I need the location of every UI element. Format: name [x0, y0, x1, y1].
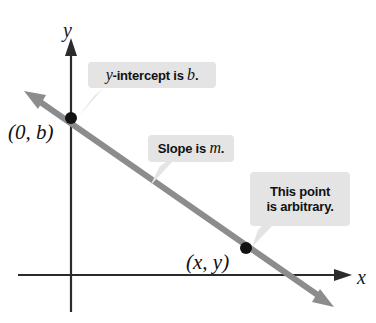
y-axis — [65, 38, 77, 312]
y-intercept-callout-end: . — [195, 68, 198, 83]
arbitrary-point-callout-line1: This point — [270, 184, 330, 199]
slope-callout-end: . — [221, 141, 224, 156]
slope-callout-pre: Slope is — [158, 141, 210, 156]
arbitrary-point-coordinate-label: (x, y) — [186, 252, 229, 273]
callout-tails — [79, 88, 272, 247]
y-intercept-callout-text: y-intercept is b. — [106, 66, 199, 85]
y-intercept-callout-mid: -intercept is — [113, 68, 188, 83]
arbitrary-point-callout: This point is arbitrary. — [250, 172, 350, 226]
y-intercept-callout: y-intercept is b. — [88, 62, 216, 88]
y-intercept-dot — [65, 112, 77, 124]
slope-intercept-line-diagram: y x (0, b) (x, y) y-intercept is b. Slop… — [0, 0, 376, 323]
slope-callout-var-m: m — [209, 139, 220, 156]
slope-callout: Slope is m. — [148, 135, 234, 162]
slope-callout-text: Slope is m. — [158, 139, 224, 158]
x-axis — [18, 269, 352, 281]
x-axis-label: x — [357, 267, 366, 287]
arbitrary-point-callout-line2: is arbitrary. — [266, 199, 333, 214]
y-axis-label: y — [63, 20, 72, 40]
y-intercept-callout-var-b: b — [187, 66, 195, 83]
arbitrary-point-dot — [240, 242, 252, 254]
y-intercept-callout-var-y: y — [106, 66, 113, 83]
y-intercept-coordinate-label: (0, b) — [8, 122, 54, 143]
